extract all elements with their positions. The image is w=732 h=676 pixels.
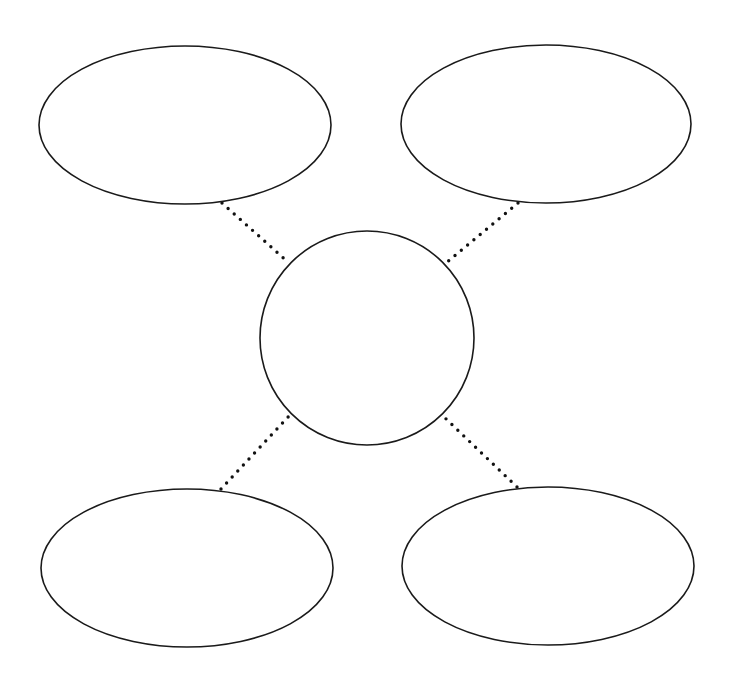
ellipse-bottom-right[interactable]: [402, 487, 694, 645]
concept-map-diagram: [0, 0, 732, 676]
ellipse-top-left[interactable]: [39, 46, 331, 204]
ellipse-top-right[interactable]: [401, 45, 691, 203]
connector-top-right: [446, 203, 518, 263]
satellite-node-top-left[interactable]: [39, 46, 331, 204]
connector-top-left: [222, 203, 289, 263]
center-node[interactable]: [260, 231, 474, 445]
satellite-node-bottom-right[interactable]: [402, 487, 694, 645]
satellite-node-top-right[interactable]: [401, 45, 691, 203]
satellite-node-bottom-left[interactable]: [41, 489, 333, 647]
connector-bottom-left: [221, 415, 290, 489]
ellipse-bottom-left[interactable]: [41, 489, 333, 647]
concept-map-canvas: [0, 0, 732, 676]
connector-bottom-right: [443, 416, 517, 487]
center-circle[interactable]: [260, 231, 474, 445]
